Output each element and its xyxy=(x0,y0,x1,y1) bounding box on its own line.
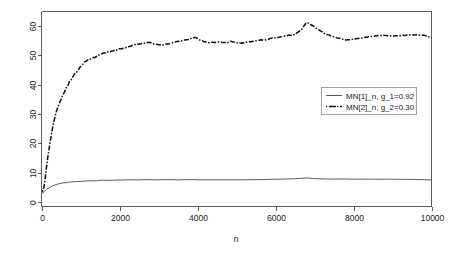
x-tick-label: 8000 xyxy=(345,213,364,223)
chart-legend[interactable]: MN[1]_n, g_1=0.92 MN[2]_n, g_2=0.30 xyxy=(322,88,417,115)
x-tick-label: 6000 xyxy=(267,213,286,223)
y-tick-label: 10 xyxy=(28,169,38,179)
x-tick-label: 4000 xyxy=(189,213,208,223)
chart-background xyxy=(0,0,454,256)
y-tick-label: 0 xyxy=(28,200,38,205)
y-tick-label: 30 xyxy=(28,110,38,120)
x-axis-title: n xyxy=(234,234,239,244)
line-chart: 0102030405060 0200040006000800010000 n M… xyxy=(0,0,454,256)
legend-label-series-2: MN[2]_n, g_2=0.30 xyxy=(346,103,415,112)
y-tick-label: 20 xyxy=(28,139,38,149)
y-tick-label: 60 xyxy=(28,22,38,32)
x-tick-label: 10000 xyxy=(421,213,445,223)
legend-label-series-1: MN[1]_n, g_1=0.92 xyxy=(346,92,415,101)
y-tick-label: 40 xyxy=(28,81,38,91)
y-tick-label: 50 xyxy=(28,51,38,61)
x-tick-label: 0 xyxy=(40,213,45,223)
chart-canvas: 0102030405060 0200040006000800010000 n M… xyxy=(0,0,454,256)
x-tick-label: 2000 xyxy=(111,213,130,223)
